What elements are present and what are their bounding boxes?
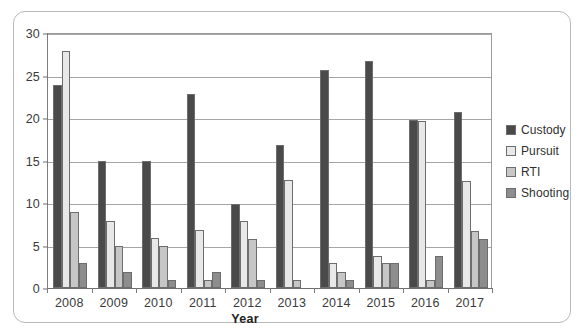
legend-label-shooting: Shooting [521,186,569,200]
legend-swatch-rti [506,167,516,177]
legend-swatch-pursuit [506,146,516,156]
x-tick-label-2008: 2008 [55,296,84,310]
x-tick-label-2013: 2013 [277,296,306,310]
chart-figure: 051015202530 200820092010201120122013201… [0,0,585,335]
x-tick-mark [270,288,271,293]
x-tick-label-2009: 2009 [99,296,128,310]
bar-custody-2014 [320,70,329,288]
bar-shooting-2012 [257,280,266,288]
legend-label-pursuit: Pursuit [521,144,559,158]
bar-shooting-2009 [123,272,132,288]
bar-rti-2010 [159,246,168,288]
legend-item-custody: Custody [506,119,582,140]
bar-pursuit-2012 [240,221,249,288]
bar-rti-2017 [471,231,480,288]
x-tick-mark [225,288,226,293]
x-tick-mark [403,288,404,293]
y-tick-label: 15 [26,155,48,169]
bar-shooting-2015 [390,263,399,288]
bar-shooting-2008 [79,263,88,288]
legend-item-pursuit: Pursuit [506,140,582,161]
legend-label-rti: RTI [521,165,540,179]
bar-custody-2012 [231,204,240,288]
bar-rti-2012 [248,239,257,288]
x-tick-mark [92,288,93,293]
bar-pursuit-2014 [329,263,338,288]
bar-custody-2013 [276,145,285,288]
x-tick-label-2017: 2017 [455,296,484,310]
gridline [48,34,491,35]
bar-shooting-2011 [212,272,221,288]
bar-pursuit-2009 [106,221,115,288]
legend-item-rti: RTI [506,161,582,182]
bar-custody-2017 [454,112,463,288]
legend-swatch-shooting [506,188,516,198]
legend-item-shooting: Shooting [506,182,582,203]
x-tick-label-2010: 2010 [144,296,173,310]
y-tick-label: 5 [33,240,48,254]
bar-pursuit-2017 [462,181,471,288]
bar-pursuit-2015 [373,256,382,288]
y-tick-label: 20 [26,112,48,126]
bar-custody-2009 [98,161,107,289]
bar-rti-2016 [426,280,435,288]
y-tick-label: 10 [26,197,48,211]
x-tick-mark [492,288,493,293]
x-tick-mark [448,288,449,293]
bar-rti-2009 [115,246,124,288]
x-axis-title: Year [231,312,259,326]
plot-area: 051015202530 [47,33,492,288]
x-tick-mark [136,288,137,293]
bar-rti-2011 [204,280,213,288]
bar-pursuit-2013 [284,180,293,288]
bar-pursuit-2016 [418,121,427,288]
bar-shooting-2016 [435,256,444,288]
bar-custody-2010 [142,161,151,289]
x-tick-label-2015: 2015 [366,296,395,310]
bar-pursuit-2008 [62,51,71,288]
bar-shooting-2010 [168,280,177,288]
x-tick-label-2011: 2011 [189,296,217,310]
legend-label-custody: Custody [521,123,566,137]
bar-rti-2008 [70,212,79,288]
bar-pursuit-2011 [195,230,204,288]
bar-custody-2008 [53,85,62,288]
x-tick-mark [181,288,182,293]
x-tick-mark [47,288,48,293]
bar-custody-2011 [187,94,196,288]
bar-custody-2015 [365,61,374,288]
x-tick-label-2016: 2016 [411,296,440,310]
y-tick-label: 30 [26,27,48,41]
gridline [48,77,491,78]
bar-pursuit-2010 [151,238,160,288]
x-tick-label-2014: 2014 [322,296,351,310]
bar-shooting-2017 [479,239,488,288]
bar-rti-2013 [293,280,302,289]
y-tick-label: 25 [26,70,48,84]
legend-swatch-custody [506,125,516,135]
x-tick-label-2012: 2012 [233,296,262,310]
bar-custody-2016 [409,120,418,288]
bar-shooting-2014 [346,280,355,288]
x-tick-mark [359,288,360,293]
chart-legend: CustodyPursuitRTIShooting [506,119,582,203]
bar-rti-2015 [382,263,391,288]
bar-rti-2014 [337,272,346,288]
y-tick-label: 0 [33,282,48,296]
x-tick-mark [314,288,315,293]
